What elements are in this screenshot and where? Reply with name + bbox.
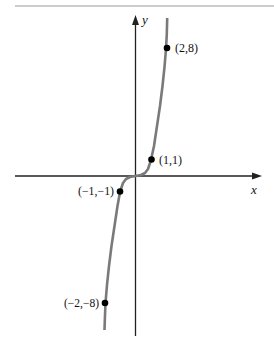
- point-neg2-neg8: [102, 300, 109, 307]
- y-axis-arrow-icon: [132, 15, 139, 25]
- x-axis-arrow-icon: [252, 173, 262, 180]
- point-label-1-1: (1,1): [159, 153, 182, 167]
- point-1-1: [148, 156, 155, 163]
- y-axis-label: y: [140, 12, 148, 27]
- cubic-function-graph: x y (2,8) (1,1) (−1,−1) (−2,−8): [0, 0, 274, 351]
- point-label-neg1-neg1: (−1,−1): [78, 184, 114, 198]
- point-label-2-8: (2,8): [175, 41, 198, 55]
- point-neg1-neg1: [117, 188, 124, 195]
- x-axis-label: x: [250, 182, 257, 197]
- point-label-neg2-neg8: (−2,−8): [64, 296, 99, 310]
- point-2-8: [164, 45, 171, 52]
